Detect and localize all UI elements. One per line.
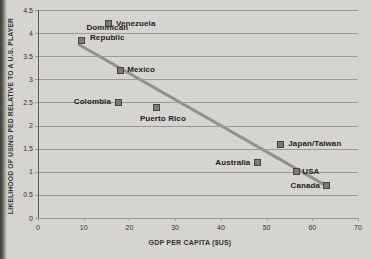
x-tick-mark <box>221 218 222 221</box>
data-point-label: Mexico <box>127 65 155 75</box>
y-axis-line <box>38 10 39 218</box>
y-tick-label: 0.5 <box>4 190 33 199</box>
gridline <box>35 195 358 196</box>
data-point-label: Australia <box>215 158 250 168</box>
trendline-layer <box>0 0 372 259</box>
x-tick-label: 10 <box>73 223 95 232</box>
data-point-label: Colombia <box>74 97 111 107</box>
y-tick-label: 3 <box>4 75 33 84</box>
x-tick-label: 70 <box>347 223 369 232</box>
gridline <box>35 79 358 80</box>
data-point-marker <box>323 182 330 189</box>
gridline <box>35 56 358 57</box>
plot-area: 00.511.522.533.544.5010203040506070Venez… <box>0 0 372 259</box>
gridline <box>35 10 358 11</box>
data-point-marker <box>115 99 122 106</box>
y-tick-label: 2 <box>4 121 33 130</box>
y-tick-label: 2.5 <box>4 98 33 107</box>
x-tick-label: 40 <box>210 223 232 232</box>
x-tick-mark <box>38 218 39 221</box>
data-point-label: USA <box>302 167 319 177</box>
data-point-marker <box>78 37 85 44</box>
y-tick-label: 4 <box>4 29 33 38</box>
x-tick-label: 0 <box>27 223 49 232</box>
data-point-marker <box>117 67 124 74</box>
data-point-marker <box>277 141 284 148</box>
x-tick-label: 60 <box>301 223 323 232</box>
gridline <box>35 33 358 34</box>
x-tick-mark <box>175 218 176 221</box>
x-tick-label: 30 <box>164 223 186 232</box>
x-tick-mark <box>267 218 268 221</box>
data-point-label: Puerto Rico <box>140 114 186 124</box>
y-tick-label: 3.5 <box>4 52 33 61</box>
y-tick-label: 4.5 <box>4 6 33 15</box>
y-tick-label: 1 <box>4 167 33 176</box>
data-point-label: DominicanRepublic <box>86 23 128 43</box>
x-tick-label: 20 <box>118 223 140 232</box>
x-tick-mark <box>84 218 85 221</box>
data-point-marker <box>153 104 160 111</box>
x-tick-label: 50 <box>256 223 278 232</box>
y-tick-label: 0 <box>4 214 33 223</box>
y-tick-label: 1.5 <box>4 144 33 153</box>
data-point-label: Japan/Taiwan <box>288 139 341 149</box>
x-tick-mark <box>129 218 130 221</box>
data-point-marker <box>254 159 261 166</box>
data-point-marker <box>293 168 300 175</box>
gridline <box>35 126 358 127</box>
x-tick-mark <box>358 218 359 221</box>
x-tick-mark <box>312 218 313 221</box>
data-point-label: Canada <box>291 181 321 191</box>
scatter-chart-figure: LIKELIHOOD OF USING PED RELATIVE TO A U.… <box>0 0 372 259</box>
